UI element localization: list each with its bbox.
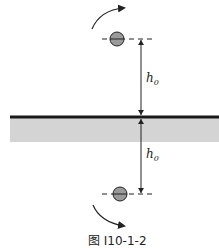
rotation-arrow-bottom-icon bbox=[93, 205, 124, 226]
shaded-region bbox=[10, 118, 219, 142]
upper-dim-arrow-top-icon bbox=[138, 40, 144, 45]
rotation-arrow-top-icon bbox=[92, 8, 124, 29]
figure-caption: 图 I10-1-2 bbox=[88, 234, 147, 248]
upper-dim-arrow-bottom-icon bbox=[138, 110, 144, 115]
lower-dim-arrow-bottom-icon bbox=[138, 188, 144, 193]
lower-distance-label: h0 bbox=[146, 147, 159, 163]
upper-distance-label: h0 bbox=[146, 71, 159, 87]
diagram-canvas: h0 h0 图 I10-1-2 bbox=[0, 0, 219, 248]
